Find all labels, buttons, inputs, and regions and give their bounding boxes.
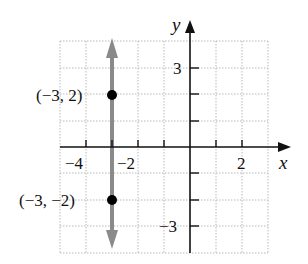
- point-neg3-2: [107, 90, 117, 100]
- x-axis: [60, 140, 291, 152]
- point-neg3-neg2: [107, 195, 117, 205]
- coordinate-plane: y x −4 −2 2 3 −3 (−3, 2) (−3, −2): [0, 0, 308, 264]
- x-tick-label-neg2: −2: [117, 154, 135, 173]
- line-arrow-down-icon: [106, 230, 118, 249]
- x-axis-label: x: [278, 152, 288, 173]
- y-axis-arrow-icon: [185, 20, 195, 33]
- x-tick-label-neg4: −4: [65, 154, 84, 173]
- x-tick-label-2: 2: [237, 154, 246, 173]
- x-axis-arrow-icon: [278, 142, 291, 152]
- y-tick-label-neg3: −3: [159, 217, 177, 236]
- point-label-upper: (−3, 2): [36, 86, 82, 105]
- point-label-lower: (−3, −2): [19, 191, 75, 210]
- y-axis: [185, 20, 199, 253]
- y-axis-label: y: [170, 14, 181, 35]
- line-arrow-up-icon: [106, 38, 118, 58]
- y-tick-label-3: 3: [173, 59, 182, 78]
